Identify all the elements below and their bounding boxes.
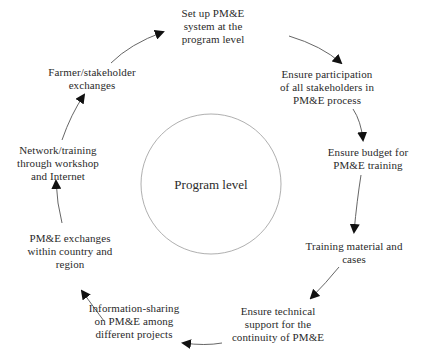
edge-setup-to-participation bbox=[289, 36, 341, 63]
node-line: on PM&E among bbox=[82, 315, 186, 328]
node-line: Information-sharing bbox=[82, 302, 186, 315]
node-line: cases bbox=[296, 253, 412, 266]
node-line: support for the bbox=[226, 318, 330, 331]
edge-participation-to-budget bbox=[353, 109, 363, 140]
node-line: Training material and bbox=[296, 240, 412, 253]
node-line: of all stakeholders in bbox=[267, 81, 387, 94]
pme-cycle-diagram: Program level Set up PM&E system at the … bbox=[0, 0, 422, 363]
node-line: Ensure participation bbox=[267, 68, 387, 81]
node-farmer-exchanges: Farmer/stakeholder exchanges bbox=[42, 66, 142, 92]
center-label: Program level bbox=[171, 177, 251, 193]
node-training-material: Training material and cases bbox=[296, 240, 412, 266]
node-info-sharing: Information-sharing on PM&E among differ… bbox=[82, 302, 186, 341]
node-technical-support: Ensure technical support for the continu… bbox=[226, 305, 330, 344]
node-line: through workshop bbox=[10, 157, 106, 170]
node-line: Ensure technical bbox=[226, 305, 330, 318]
edge-technical-support-to-info-sharing bbox=[183, 343, 222, 345]
edge-network-training-to-farmer-exchanges bbox=[62, 95, 84, 140]
node-line: Ensure budget for bbox=[318, 146, 418, 159]
node-participation: Ensure participation of all stakeholders… bbox=[267, 68, 387, 107]
node-line: and Internet bbox=[10, 170, 106, 183]
edge-farmer-exchanges-to-setup bbox=[111, 32, 163, 63]
center-label-text: Program level bbox=[174, 177, 247, 192]
node-line: system at the bbox=[168, 20, 258, 33]
node-line: region bbox=[20, 258, 120, 271]
edge-pme-exchanges-to-network-training bbox=[56, 181, 62, 223]
node-line: PM&E exchanges bbox=[20, 232, 120, 245]
node-line: within country and bbox=[20, 245, 120, 258]
node-line: Farmer/stakeholder bbox=[42, 66, 142, 79]
node-budget: Ensure budget for PM&E training bbox=[318, 146, 418, 172]
node-line: continuity of PM&E bbox=[226, 331, 330, 344]
node-line: different projects bbox=[82, 328, 186, 341]
node-line: Network/training bbox=[10, 144, 106, 157]
node-network-training: Network/training through workshop and In… bbox=[10, 144, 106, 183]
edge-budget-to-training-material bbox=[354, 175, 361, 232]
node-line: exchanges bbox=[42, 79, 142, 92]
node-line: program level bbox=[168, 33, 258, 46]
node-pme-exchanges: PM&E exchanges within country and region bbox=[20, 232, 120, 271]
node-line: PM&E training bbox=[318, 159, 418, 172]
node-line: Set up PM&E bbox=[168, 7, 258, 20]
edge-training-material-to-technical-support bbox=[311, 267, 339, 298]
node-setup: Set up PM&E system at the program level bbox=[168, 7, 258, 46]
node-line: PM&E process bbox=[267, 94, 387, 107]
